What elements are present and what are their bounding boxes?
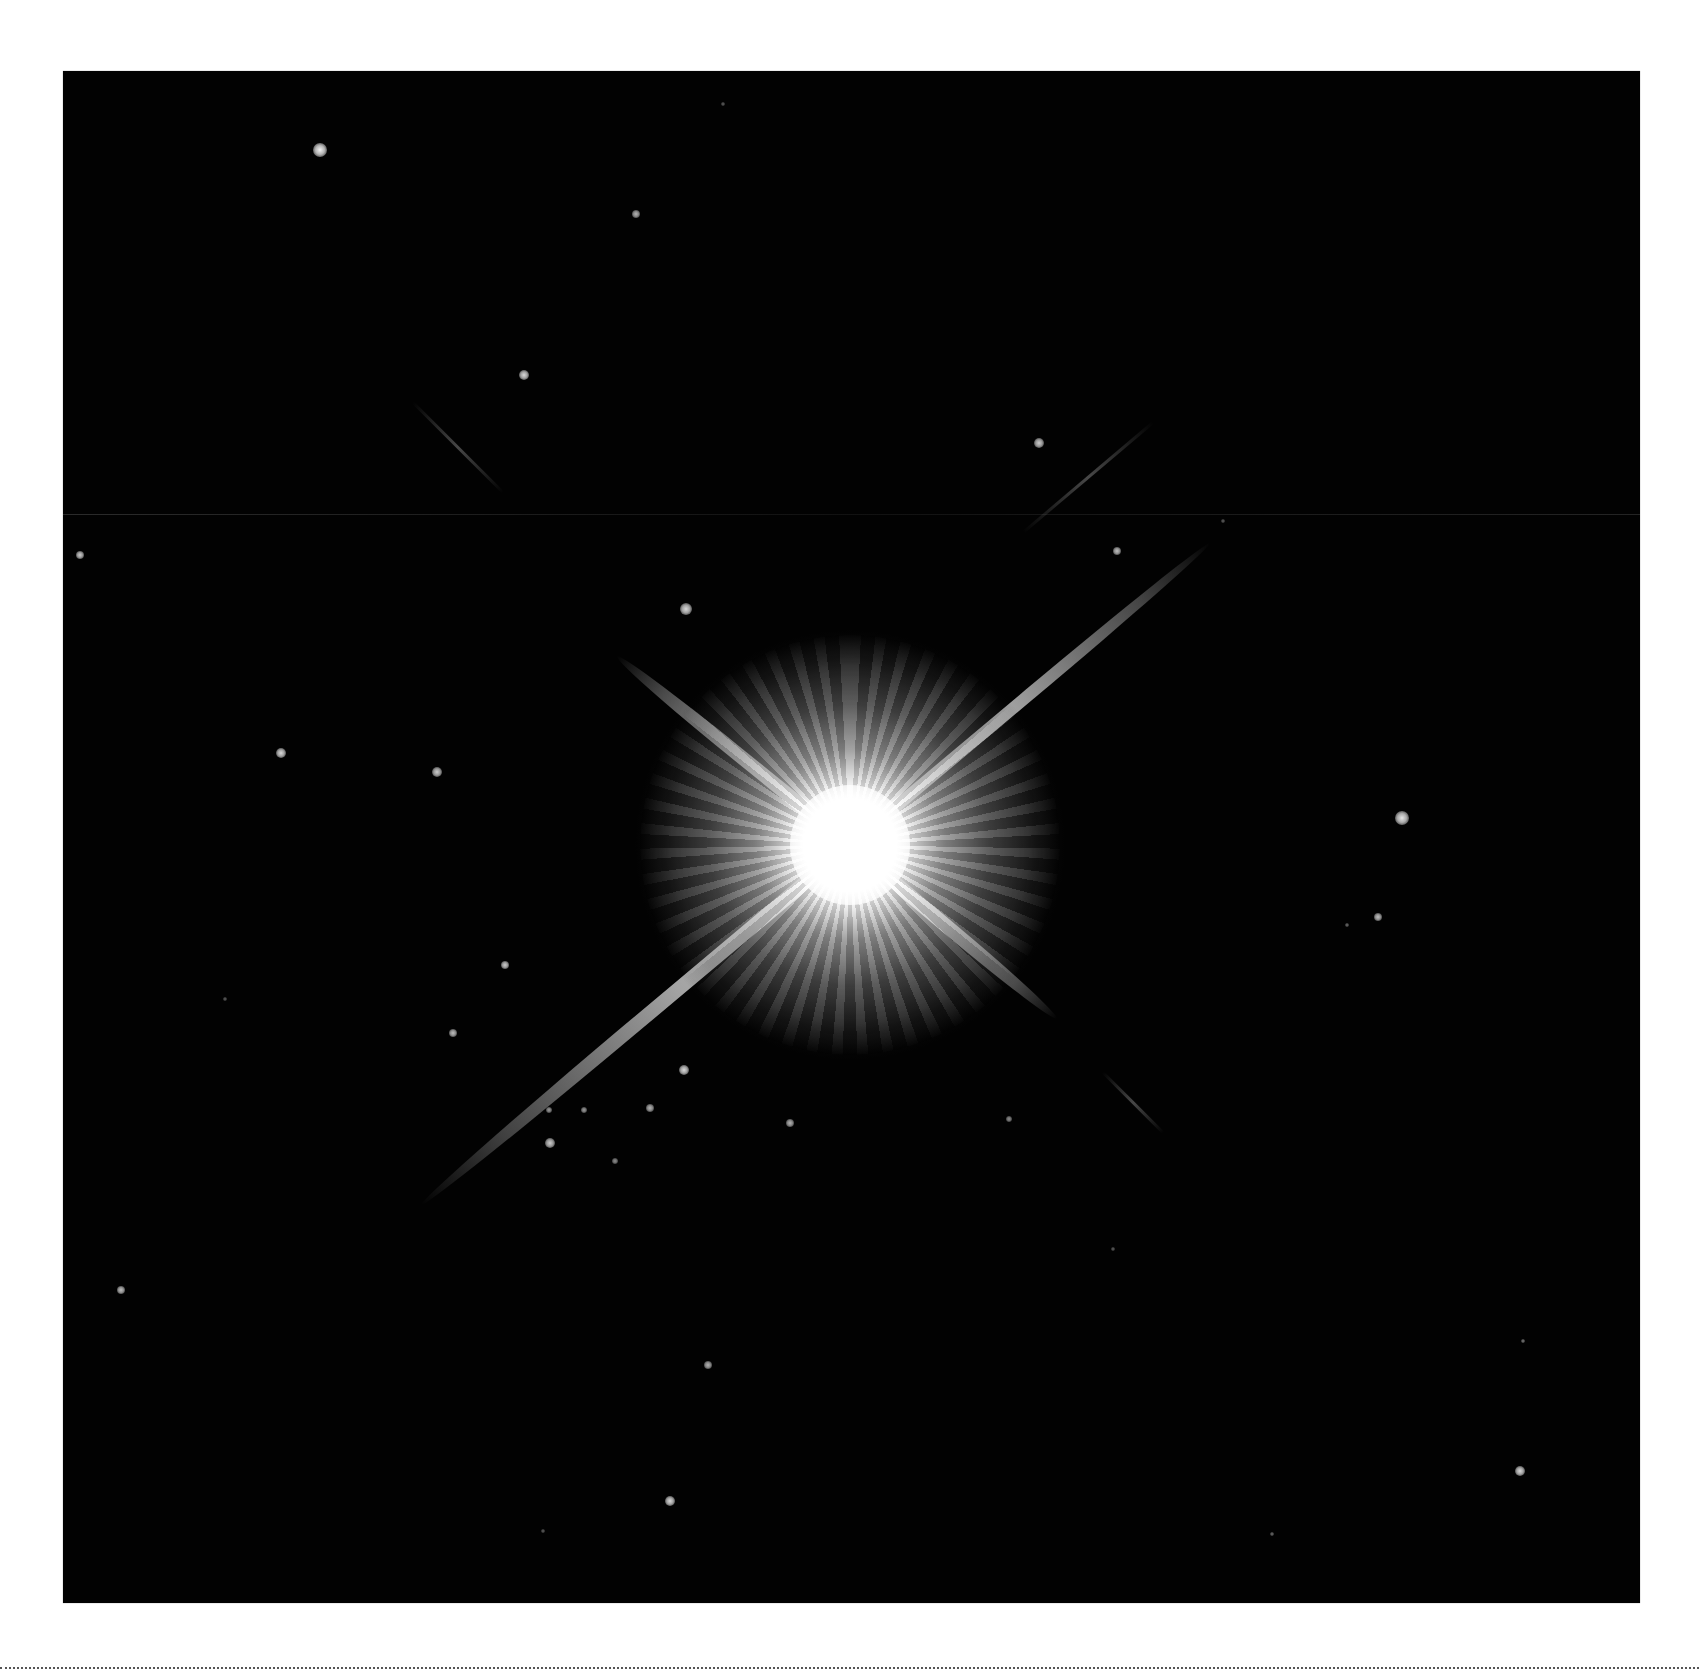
star-point <box>519 370 529 380</box>
star-point <box>1374 913 1382 921</box>
star-point <box>632 210 640 218</box>
star-point <box>546 1107 552 1113</box>
star-point <box>449 1029 457 1037</box>
star-point <box>1345 923 1349 927</box>
footer-dotted-divider <box>0 1667 1699 1669</box>
faint-spike-extension <box>1102 1071 1164 1133</box>
star-point <box>223 997 227 1001</box>
star-point <box>1515 1466 1525 1476</box>
star-point <box>1270 1532 1274 1536</box>
faint-spike-extension <box>412 401 504 493</box>
star-point <box>646 1104 654 1112</box>
star-point <box>679 1065 689 1075</box>
star-point <box>117 1286 125 1294</box>
star-point <box>1395 811 1409 825</box>
star-point <box>612 1158 618 1164</box>
star-point <box>276 748 286 758</box>
star-point <box>1111 1247 1115 1251</box>
star-point <box>541 1529 545 1533</box>
bright-star-core <box>790 785 910 905</box>
star-point <box>721 102 725 106</box>
star-point <box>1221 519 1225 523</box>
star-point <box>1113 547 1121 555</box>
star-point <box>432 767 442 777</box>
sensor-seam-line <box>63 514 1640 515</box>
star-point <box>665 1496 675 1506</box>
star-point <box>1521 1339 1525 1343</box>
star-point <box>76 551 84 559</box>
star-point <box>313 143 327 157</box>
star-point <box>545 1138 555 1148</box>
star-point <box>1034 438 1044 448</box>
star-point <box>680 603 692 615</box>
star-field-photo <box>63 71 1640 1603</box>
star-point <box>704 1361 712 1369</box>
star-point <box>501 961 509 969</box>
star-point <box>786 1119 794 1127</box>
star-point <box>1006 1116 1012 1122</box>
star-point <box>581 1107 587 1113</box>
